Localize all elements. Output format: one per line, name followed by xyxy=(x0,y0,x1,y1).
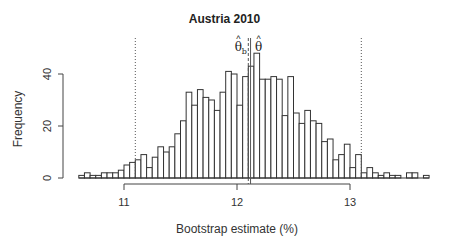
histogram-bar xyxy=(209,100,215,178)
histogram-bar xyxy=(248,66,254,178)
histogram-bar xyxy=(186,92,192,178)
histogram-bar xyxy=(84,173,90,178)
histogram-bar xyxy=(373,173,379,178)
y-tick-label: 40 xyxy=(41,68,53,80)
y-tick-label: 0 xyxy=(41,175,53,181)
histogram-bar xyxy=(237,105,243,178)
histogram-bar xyxy=(299,123,305,178)
histogram-bar xyxy=(192,105,198,178)
histogram-bar xyxy=(169,147,175,178)
histogram-bar xyxy=(243,77,249,178)
histogram-bar xyxy=(271,77,277,178)
histogram-bar xyxy=(124,165,130,178)
histogram-bar xyxy=(203,97,209,178)
histogram-bar xyxy=(384,173,390,178)
histogram-bar xyxy=(367,168,373,178)
histogram-bar xyxy=(294,113,300,178)
theta-b-subscript: b xyxy=(242,47,247,56)
histogram-bar xyxy=(175,134,181,178)
histogram-bar xyxy=(333,160,339,178)
histogram-bar xyxy=(327,139,333,178)
histogram-bar xyxy=(118,170,124,178)
histogram-bar xyxy=(197,90,203,178)
x-tick-label: 11 xyxy=(118,196,129,208)
histogram-bar xyxy=(130,162,136,178)
histogram-bar xyxy=(412,173,418,178)
histogram-bar xyxy=(147,168,153,178)
histogram-bar xyxy=(164,152,170,178)
y-tick-label: 20 xyxy=(41,120,53,132)
x-tick-label: 13 xyxy=(344,196,356,208)
histogram-bar xyxy=(265,79,271,178)
histogram-bar xyxy=(214,110,220,178)
histogram-bar xyxy=(158,147,164,178)
histogram-bar xyxy=(231,74,237,178)
histogram-bar xyxy=(113,173,119,178)
histogram-bar xyxy=(254,53,260,178)
histogram-bar xyxy=(305,110,311,178)
histogram-chart: Austria 2010 Frequency Bootstrap estimat… xyxy=(0,0,449,247)
histogram-bar xyxy=(101,173,107,178)
plot-area: 02040111213θb^θ^ xyxy=(0,0,449,247)
histogram-bar xyxy=(220,92,226,178)
histogram-bar xyxy=(181,121,187,178)
histogram-bar xyxy=(322,142,328,178)
histogram-bar xyxy=(141,155,147,178)
histogram-bar xyxy=(361,173,367,178)
histogram-bar xyxy=(350,168,356,178)
histogram-bar xyxy=(344,144,350,178)
histogram-bar xyxy=(310,121,316,178)
histogram-bar xyxy=(282,116,288,178)
histogram-bar xyxy=(135,160,141,178)
histogram-bar xyxy=(107,173,113,178)
histogram-bar xyxy=(226,71,232,178)
x-tick-label: 12 xyxy=(231,196,243,208)
histogram-bar xyxy=(356,155,362,178)
histogram-bar xyxy=(316,123,322,178)
histogram-bar xyxy=(407,173,413,178)
histogram-bar xyxy=(339,155,345,178)
histogram-bar xyxy=(277,79,283,178)
histogram-bar xyxy=(152,157,158,178)
histogram-bar xyxy=(260,79,266,178)
histogram-bar xyxy=(288,77,294,178)
